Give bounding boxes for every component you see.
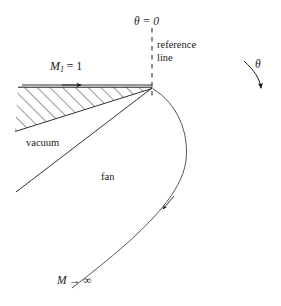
mach-infinity-arrow: → ∞ <box>69 274 92 286</box>
fan-boundary-curve-arrow <box>163 196 174 209</box>
reference-label: reference <box>157 40 196 51</box>
mach-one-label: M1 = 1 <box>50 60 82 74</box>
vacuum-label: vacuum <box>26 138 59 149</box>
theta-zero-label: θ = 0 <box>134 16 159 28</box>
vacuum-region-hatched <box>15 87 152 131</box>
fan-boundary-curve <box>72 89 186 289</box>
mach-one-symbol: M <box>50 59 60 73</box>
mach-infinity-symbol: M <box>57 274 67 286</box>
mach-infinity-label: M → ∞ <box>57 275 91 287</box>
line-label: line <box>157 53 173 64</box>
fan-label: fan <box>101 172 114 183</box>
mach-one-equals: = 1 <box>66 59 82 73</box>
theta-direction-label: θ <box>255 59 261 71</box>
expansion-fan-figure <box>0 0 281 306</box>
